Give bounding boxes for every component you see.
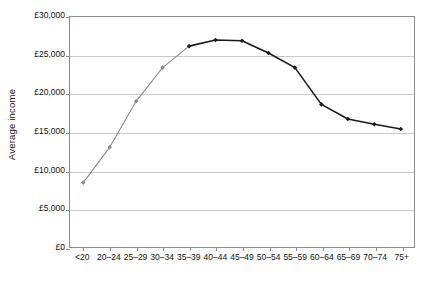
y-axis-tick-mark — [66, 56, 70, 57]
plot-area — [69, 16, 415, 248]
y-axis-tick-label: £0 — [18, 243, 65, 252]
data-point-marker — [398, 127, 403, 132]
y-axis-tick-label: £15,000 — [18, 127, 65, 136]
x-axis-tick-mark — [163, 247, 164, 251]
y-axis-title-label: Average income — [7, 88, 18, 159]
x-axis-tick-mark — [270, 247, 271, 251]
y-axis-tick-label: £25,000 — [18, 50, 65, 59]
y-axis-tick-mark — [66, 172, 70, 173]
x-axis-tick-mark — [110, 247, 111, 251]
line-series — [70, 17, 414, 247]
x-axis-tick-mark — [349, 247, 350, 251]
x-axis-tick-mark — [403, 247, 404, 251]
x-axis-tick-label: 75+ — [380, 252, 424, 262]
x-axis-tick-labels: <2020–2425–2930–3435–3940–4445–4950–5455… — [69, 252, 415, 274]
x-axis-tick-mark — [216, 247, 217, 251]
x-axis-tick-mark — [83, 247, 84, 251]
y-axis-tick-label: £5,000 — [18, 204, 65, 213]
x-axis-tick-mark — [190, 247, 191, 251]
y-axis-tick-mark — [66, 249, 70, 250]
x-axis-tick-mark — [137, 247, 138, 251]
series-line-segment — [189, 40, 401, 129]
data-point-marker — [372, 122, 377, 127]
y-axis-tick-label: £30,000 — [18, 11, 65, 20]
x-axis-tick-mark — [296, 247, 297, 251]
y-axis-tick-mark — [66, 210, 70, 211]
y-axis-tick-label: £10,000 — [18, 166, 65, 175]
y-axis-tick-label: £20,000 — [18, 88, 65, 97]
series-line-segment — [83, 46, 189, 182]
x-axis-tick-mark — [243, 247, 244, 251]
x-axis-tick-mark — [376, 247, 377, 251]
y-axis-tick-mark — [66, 94, 70, 95]
income-by-age-chart: Average income £0£5,000£10,000£15,000£20… — [0, 0, 424, 282]
y-axis-tick-labels: £0£5,000£10,000£15,000£20,000£25,000£30,… — [18, 0, 65, 282]
data-point-marker — [213, 38, 218, 43]
x-axis-tick-mark — [323, 247, 324, 251]
y-axis-tick-mark — [66, 133, 70, 134]
y-axis-tick-mark — [66, 17, 70, 18]
